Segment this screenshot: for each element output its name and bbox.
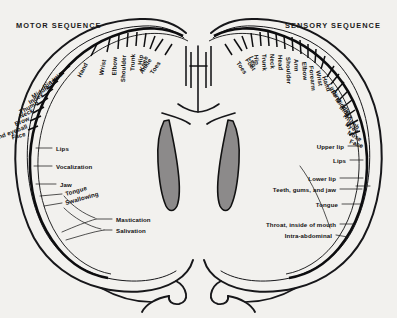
motor-label-jaw: Jaw	[36, 181, 72, 188]
motor-label-text: Wrist	[97, 59, 107, 76]
motor-label-text: Shoulder	[119, 54, 127, 82]
sensory-label-text: Throat, inside of mouth	[266, 221, 336, 228]
sensory-label-shoulder: Shoulder	[284, 35, 293, 85]
sensory-label-text: Elbow	[301, 62, 309, 81]
motor-label-text: Salivation	[116, 227, 146, 234]
sensory-label-text: Shoulder	[285, 57, 293, 85]
brainstem-outline	[101, 281, 296, 312]
motor-label-salivation: Salivation	[66, 227, 146, 241]
motor-label-text: Mastication	[116, 216, 151, 223]
sensory-label-trunk: Trunk	[260, 32, 269, 72]
sensory-sequence-header: SENSORY SEQUENCE	[285, 21, 381, 30]
motor-label-group: Toes Ankle Knee Hip Trunk Shoulder	[0, 32, 172, 240]
motor-label-vocalization: Vocalization	[34, 163, 92, 170]
sensory-label-text: Tongue	[316, 201, 339, 208]
sensory-label-text: Neck	[269, 54, 277, 70]
sensory-label-text: Lower lip	[308, 175, 336, 182]
motor-label-text: Hand	[75, 61, 89, 78]
motor-label-shoulder: Shoulder	[119, 33, 128, 82]
motor-label-text: Lips	[56, 145, 69, 152]
sensory-label-group: Toes Foot Leg Hip Trunk Neck Hea	[225, 32, 370, 239]
sensory-label-text: Teeth, gums, and jaw	[273, 186, 336, 193]
sensory-label-text: Upper lip	[317, 143, 344, 150]
sensory-label-text: Lips	[333, 157, 346, 164]
sensory-label-text: Arm	[293, 59, 300, 72]
motor-sequence-header: MOTOR SEQUENCE	[16, 21, 102, 30]
motor-label-lips: Lips	[36, 145, 69, 152]
motor-label-text: Vocalization	[56, 163, 92, 170]
ventricles	[158, 113, 239, 211]
sensory-label-teeth-gums-and-jaw: Teeth, gums, and jaw	[273, 186, 362, 193]
motor-label-text: Trunk	[128, 53, 136, 71]
sensory-label-throat-inside-of-mouth: Throat, inside of mouth	[266, 221, 354, 228]
sensory-label-text: Face	[349, 137, 365, 149]
sensory-label-text: Intra-abdominal	[285, 232, 332, 239]
brain-diagram-canvas: Toes Ankle Knee Hip Trunk Shoulder	[0, 0, 397, 318]
motor-label-text: Elbow	[110, 57, 118, 76]
motor-label-text: Hip	[136, 54, 144, 65]
motor-label-text: Jaw	[60, 181, 72, 188]
sensory-label-text: Trunk	[261, 54, 269, 72]
sensory-label-text: Head	[277, 55, 285, 71]
sensory-label-lower-lip: Lower lip	[308, 175, 363, 182]
motor-label-toes: Toes	[148, 44, 172, 75]
motor-medial-ticks	[186, 46, 191, 88]
homunculus-figure: Toes Ankle Knee Hip Trunk Shoulder	[0, 0, 397, 318]
sensory-medial-ticks	[206, 46, 211, 88]
midline-stalk	[178, 46, 219, 112]
sensory-label-text: Forearm	[308, 65, 318, 91]
sensory-label-text: Hip	[253, 54, 261, 65]
